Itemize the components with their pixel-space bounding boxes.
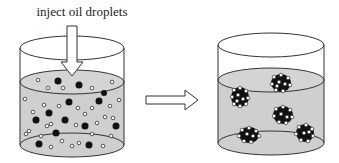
inject-arrow-icon	[61, 26, 83, 76]
diagram-canvas	[0, 0, 339, 163]
cluster-1	[230, 86, 250, 108]
process-arrow-icon	[146, 90, 198, 110]
